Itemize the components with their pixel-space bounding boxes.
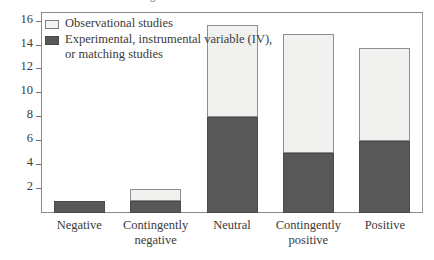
y-tick-label: 2 <box>27 180 33 193</box>
caption-sliver-text: g <box>150 0 155 2</box>
bar-group[interactable] <box>54 201 105 213</box>
legend-swatch-light <box>45 20 59 29</box>
bar-segment[interactable] <box>130 201 181 213</box>
y-tick-label: 8 <box>27 108 33 121</box>
bar-group[interactable] <box>130 189 181 213</box>
y-tick-label: 6 <box>27 132 33 145</box>
legend-label: Observational studies <box>65 16 173 31</box>
legend-item: Observational studies <box>45 16 275 31</box>
x-axis-label: Negative <box>43 218 115 233</box>
bar-group[interactable] <box>359 48 410 213</box>
bar-group[interactable] <box>283 34 334 213</box>
x-axis-label: Contingently negative <box>119 218 191 248</box>
chart-legend: Observational studiesExperimental, instr… <box>45 16 275 63</box>
x-axis-labels: NegativeContingently negativeNeutralCont… <box>41 218 423 258</box>
legend-label: Experimental, instrumental variable (IV)… <box>65 32 275 62</box>
y-axis: 246810121416 <box>0 12 41 213</box>
legend-item: Experimental, instrumental variable (IV)… <box>45 32 275 62</box>
y-tick-label: 16 <box>21 13 34 26</box>
y-tick-label: 10 <box>21 84 34 97</box>
bar-segment[interactable] <box>359 48 410 141</box>
y-tick-label: 14 <box>21 37 34 50</box>
y-tick-label: 4 <box>27 156 33 169</box>
bar-segment[interactable] <box>283 34 334 154</box>
stacked-bar-chart: g 246810121416 NegativeContingently nega… <box>0 0 434 260</box>
legend-swatch-dark <box>45 36 59 45</box>
bar-segment[interactable] <box>54 201 105 213</box>
x-axis-label: Neutral <box>196 218 268 233</box>
bar-segment[interactable] <box>283 153 334 213</box>
y-tick-label: 12 <box>21 60 34 73</box>
x-axis-label: Positive <box>349 218 421 233</box>
cutoff-caption-strip: g <box>0 0 434 11</box>
x-axis-label: Contingently positive <box>272 218 344 248</box>
bar-segment[interactable] <box>130 189 181 201</box>
bar-segment[interactable] <box>359 141 410 213</box>
bar-segment[interactable] <box>207 117 258 213</box>
